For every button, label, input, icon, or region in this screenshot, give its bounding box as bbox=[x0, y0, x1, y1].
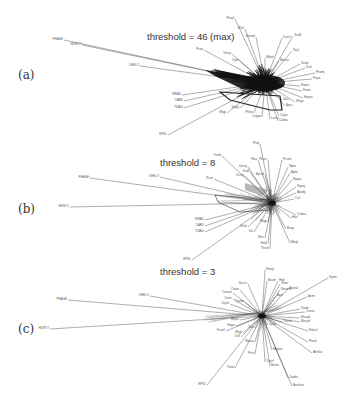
node-label: HDNTO bbox=[38, 326, 49, 330]
node-label: Thesh bbox=[261, 246, 270, 250]
node-label: Wascp bbox=[245, 339, 254, 343]
node-label: Coten bbox=[231, 287, 239, 291]
node-label: Orym bbox=[232, 58, 240, 62]
node-label: Nrpsq bbox=[297, 184, 305, 188]
node-label: PHAGE bbox=[52, 37, 63, 41]
node-label: TDADt bbox=[174, 105, 183, 109]
node-label: Apel bbox=[277, 293, 283, 297]
node-label: Mtlpd bbox=[266, 55, 274, 59]
node-label: CARD bbox=[174, 98, 183, 102]
node-label: Wegn bbox=[296, 99, 304, 103]
node-label: Pla1 bbox=[238, 26, 244, 30]
node-label: Mus bbox=[258, 235, 264, 239]
panel-label-c: (c) bbox=[18, 322, 34, 336]
node-label: Healp bbox=[266, 267, 274, 271]
node-label: Saccv bbox=[239, 281, 248, 285]
node-label: Plas bbox=[251, 157, 257, 161]
node-label: Dcnig bbox=[236, 173, 244, 177]
node-label: Npen bbox=[289, 164, 297, 168]
node-label: Urosy bbox=[239, 164, 247, 168]
node-label: Fasd bbox=[227, 365, 234, 369]
node-label: EPSL bbox=[183, 257, 191, 261]
node-label: Prcmz bbox=[283, 157, 292, 161]
node-label: Kyom bbox=[329, 275, 337, 279]
node-label: Trexd bbox=[213, 153, 221, 157]
node-label: Apsc bbox=[286, 103, 293, 107]
node-label: Bnate bbox=[271, 363, 279, 367]
node-label: TDADt bbox=[195, 229, 204, 233]
node-label: Fujan bbox=[313, 76, 321, 80]
node-label: CHELO bbox=[129, 63, 140, 67]
node-label: Nypsa bbox=[293, 177, 302, 181]
node-label: Halsul bbox=[309, 328, 318, 332]
node-label: WRAU bbox=[195, 217, 204, 221]
node-label: Xenom bbox=[245, 34, 255, 38]
node-label: Ahrtlux bbox=[313, 350, 323, 354]
node-label: Cprpl bbox=[269, 322, 277, 326]
node-label: EPSL bbox=[198, 382, 206, 386]
node-label: Bpred bbox=[256, 172, 264, 176]
node-label: Dell bbox=[235, 334, 241, 338]
panel-title-a: threshold = 46 (max) bbox=[147, 31, 234, 42]
node-label: PHAGE bbox=[78, 175, 89, 179]
node-label: Codea bbox=[297, 212, 306, 216]
node-label: Mocyd bbox=[301, 319, 310, 323]
node-label: CHELO bbox=[139, 293, 150, 297]
node-label: Mlpsa bbox=[231, 317, 239, 321]
node-label: Hebi bbox=[261, 241, 268, 245]
node-label: Hupsn bbox=[304, 95, 313, 99]
node-label: WRAX bbox=[172, 92, 181, 96]
node-label: Colps bbox=[280, 113, 288, 117]
node-label: Hbpnd bbox=[273, 347, 282, 351]
node-label: Dsd bbox=[306, 65, 312, 69]
node-label: Aplm bbox=[291, 170, 298, 174]
node-label: Hipps bbox=[227, 323, 235, 327]
node-label: Cnexu bbox=[306, 309, 315, 313]
node-label: Pcon bbox=[196, 47, 203, 51]
node-label: Bsum bbox=[268, 278, 276, 282]
node-label: Sropy bbox=[231, 105, 239, 109]
node-label: Lacto bbox=[271, 116, 279, 120]
node-label: Dfulo bbox=[240, 224, 247, 228]
node-label: Aemr bbox=[308, 294, 315, 298]
node-label: Mtgp bbox=[219, 110, 226, 114]
node-label: EPSL bbox=[159, 132, 167, 136]
node-label: Cynbe bbox=[235, 299, 244, 303]
node-label: PHAGE bbox=[56, 297, 67, 301]
node-label: Fcoo1 bbox=[217, 328, 226, 332]
node-label: Dvl bbox=[249, 229, 254, 233]
figure: PHAGEHDNTOCHELOPlasdPla1XenomDros1SnaBPc… bbox=[0, 0, 349, 403]
node-label: Sta1 bbox=[293, 48, 300, 52]
node-label: Drpel bbox=[222, 301, 230, 305]
node-label: CHELO bbox=[149, 174, 160, 178]
node-label: Hupsc bbox=[301, 83, 310, 87]
node-label: Hacl bbox=[292, 215, 298, 219]
node-label: Plasd bbox=[226, 16, 234, 20]
panel-label-a: (a) bbox=[18, 68, 35, 82]
node-label: Apedy bbox=[297, 190, 306, 194]
node-label: Fonto bbox=[303, 88, 311, 92]
node-label: Plaxd bbox=[309, 339, 317, 343]
node-label: Cuil bbox=[295, 196, 301, 200]
node-label: Urosy bbox=[223, 51, 231, 55]
node-label: Cvmn bbox=[224, 296, 232, 300]
node-label: Sau bbox=[283, 97, 289, 101]
node-label: Codea bbox=[279, 118, 288, 122]
panel-title-b: threshold = 8 bbox=[160, 157, 215, 168]
node-label: Dros1 bbox=[283, 35, 291, 39]
node-label: Prcnz bbox=[259, 157, 267, 161]
node-label: CARD bbox=[195, 223, 204, 227]
node-label: SnaB bbox=[294, 33, 301, 37]
panel-label-b: (b) bbox=[18, 202, 35, 216]
node-label: Mwgl bbox=[291, 240, 298, 244]
node-label: Pcnt bbox=[248, 351, 254, 355]
node-label: Cuppa bbox=[252, 114, 261, 118]
node-label: Pleq bbox=[253, 141, 259, 145]
node-label: Mtgp bbox=[260, 219, 267, 223]
network-diagram: PHAGEHDNTOCHELOPlasdPla1XenomDros1SnaBPc… bbox=[0, 0, 349, 403]
panel-title-c: threshold = 3 bbox=[160, 266, 215, 277]
node-label: Arauhas bbox=[293, 383, 305, 387]
node-label: HDNTO bbox=[70, 42, 81, 46]
node-label: Cenbx bbox=[289, 375, 298, 379]
node-label: Pcon bbox=[206, 176, 213, 180]
